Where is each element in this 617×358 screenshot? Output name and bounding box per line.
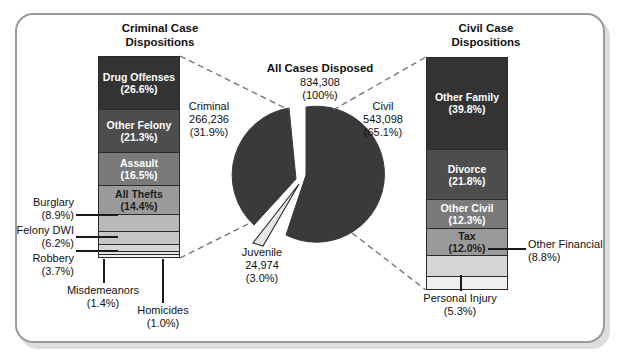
pie-title-text: All Cases Disposed: [240, 62, 400, 76]
civil-segment-tax-percent: (12.0%): [449, 242, 486, 254]
civil-segment-other-civil-label: Other Civil: [440, 202, 493, 214]
civil-segment-other-family-percent: (39.8%): [449, 103, 486, 115]
criminal-segment-other-felony-percent: (21.3%): [121, 131, 158, 143]
civil-segment-other-civil-percent: (12.3%): [449, 214, 486, 226]
pie-total-count: 834,308: [240, 76, 400, 89]
pie-callout-juvenile-percent: (3.0%): [228, 272, 296, 285]
criminal-segment-drug-offenses-percent: (26.6%): [121, 83, 158, 95]
criminal-segment-other-felony: Other Felony (21.3%): [99, 110, 179, 153]
criminal-label-burglary-percent: (8.9%): [12, 209, 74, 222]
criminal-label-homicides-name: Homicides: [118, 304, 208, 317]
criminal-label-misdemeanors-name: Misdemeanors: [48, 284, 158, 297]
pie-total-block: 834,308 (100%): [240, 76, 400, 102]
pie-callout-criminal-percent: (31.9%): [178, 126, 240, 139]
criminal-label-robbery-name: Robbery: [12, 252, 74, 265]
civil-label-personal-injury: Personal Injury (5.3%): [400, 292, 520, 318]
civil-label-other-financial: Other Financial (8.8%): [528, 238, 614, 264]
leader-burglary: [76, 214, 118, 216]
civil-stacked-bar: Other Family (39.8%) Divorce (21.8%) Oth…: [426, 57, 508, 290]
criminal-label-burglary-name: Burglary: [12, 196, 74, 209]
civil-label-other-financial-name: Other Financial: [528, 238, 614, 251]
criminal-segment-assault-label: Assault: [120, 157, 158, 169]
pie-callout-civil-percent: (65.1%): [352, 126, 414, 139]
criminal-segment-all-thefts-percent: (14.4%): [121, 200, 158, 212]
criminal-label-burglary: Burglary (8.9%): [12, 196, 74, 222]
leader-other-financial: [488, 248, 526, 250]
civil-segment-divorce-label: Divorce: [448, 163, 487, 175]
leader-homicides: [162, 259, 164, 303]
criminal-segment-other-felony-label: Other Felony: [107, 119, 172, 131]
civil-panel-title-line2: Dispositions: [416, 36, 556, 50]
civil-label-personal-injury-name: Personal Injury: [400, 292, 520, 305]
civil-segment-other-family: Other Family (39.8%): [427, 58, 507, 150]
leader-felony-dwi: [76, 236, 118, 238]
pie-callout-criminal-label: Criminal: [178, 100, 240, 113]
pie-callout-criminal-count: 266,236: [178, 113, 240, 126]
criminal-panel-title: Criminal Case Dispositions: [90, 22, 230, 49]
criminal-label-homicides-percent: (1.0%): [118, 317, 208, 330]
criminal-segment-all-thefts: All Thefts (14.4%): [99, 186, 179, 215]
pie-callout-civil-count: 543,098: [352, 113, 414, 126]
civil-segment-tax: Tax (12.0%): [427, 229, 507, 257]
criminal-label-homicides: Homicides (1.0%): [118, 304, 208, 330]
pie-callout-civil-label: Civil: [352, 100, 414, 113]
civil-segment-divorce: Divorce (21.8%): [427, 150, 507, 200]
pie-callout-criminal: Criminal 266,236 (31.9%): [178, 100, 240, 139]
criminal-segment-drug-offenses: Drug Offenses (26.6%): [99, 57, 179, 110]
criminal-label-felony-dwi-name: Felony DWI: [4, 224, 74, 237]
criminal-segment-assault: Assault (16.5%): [99, 153, 179, 186]
leader-misdemeanors: [103, 259, 105, 283]
criminal-segment-all-thefts-label: All Thefts: [115, 188, 163, 200]
civil-segment-other-civil: Other Civil (12.3%): [427, 200, 507, 228]
pie-callout-civil: Civil 543,098 (65.1%): [352, 100, 414, 139]
pie-callout-juvenile-count: 24,974: [228, 259, 296, 272]
criminal-label-robbery: Robbery (3.7%): [12, 252, 74, 278]
criminal-panel-title-line1: Criminal Case: [90, 22, 230, 36]
civil-panel-title-line1: Civil Case: [416, 22, 556, 36]
leader-robbery: [76, 250, 118, 252]
pie-chart-title: All Cases Disposed: [240, 62, 400, 76]
criminal-stacked-bar: Drug Offenses (26.6%) Other Felony (21.3…: [98, 56, 180, 258]
criminal-segment-drug-offenses-label: Drug Offenses: [103, 71, 175, 83]
pie-callout-juvenile: Juvenile 24,974 (3.0%): [228, 246, 296, 285]
civil-segment-other-financial: [427, 256, 507, 276]
civil-label-personal-injury-percent: (5.3%): [400, 305, 520, 318]
civil-segment-other-family-label: Other Family: [435, 91, 499, 103]
civil-panel-title: Civil Case Dispositions: [416, 22, 556, 49]
criminal-label-felony-dwi: Felony DWI (6.2%): [4, 224, 74, 250]
civil-segment-personal-injury: [427, 277, 507, 289]
criminal-segment-homicides: [99, 255, 179, 257]
criminal-segment-felony-dwi: [99, 232, 179, 244]
civil-segment-tax-label: Tax: [458, 230, 475, 242]
civil-segment-divorce-percent: (21.8%): [449, 175, 486, 187]
pie-callout-juvenile-label: Juvenile: [228, 246, 296, 259]
leader-personal-injury: [460, 275, 462, 291]
criminal-segment-assault-percent: (16.5%): [121, 169, 158, 181]
criminal-label-felony-dwi-percent: (6.2%): [4, 237, 74, 250]
criminal-label-robbery-percent: (3.7%): [12, 265, 74, 278]
criminal-segment-burglary: [99, 215, 179, 233]
criminal-panel-title-line2: Dispositions: [90, 36, 230, 50]
civil-label-other-financial-percent: (8.8%): [528, 251, 614, 264]
